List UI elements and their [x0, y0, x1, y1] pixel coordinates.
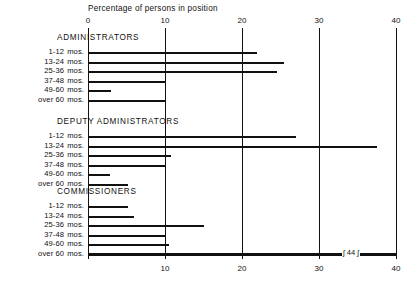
- bar-deputy-administrators-37-48-mos: [88, 165, 165, 167]
- bar-commissioners-1-12-mos: [88, 206, 128, 208]
- axis-break-annotation: ʃ 44 ʃ: [342, 249, 360, 257]
- top-tick-label-30: 30: [315, 16, 324, 25]
- category-label-deputy-administrators-49-60-mos: 49-60mos.: [0, 169, 84, 178]
- gridline-40: [396, 28, 397, 254]
- category-label-deputy-administrators-13-24-mos: 13-24mos.: [0, 141, 84, 150]
- bar-deputy-administrators-over-60-mos: [88, 184, 128, 186]
- bar-commissioners-25-36-mos: [88, 225, 204, 227]
- category-label-administrators-25-36-mos: 25-36mos.: [0, 66, 84, 75]
- category-label-administrators-1-12-mos: 1-12mos.: [0, 47, 84, 56]
- top-tick-label-20: 20: [238, 16, 247, 25]
- category-label-commissioners-1-12-mos: 1-12mos.: [0, 201, 84, 210]
- category-label-deputy-administrators-37-48-mos: 37-48mos.: [0, 160, 84, 169]
- group-title-deputy-administrators: DEPUTY ADMINISTRATORS: [57, 117, 179, 126]
- category-label-administrators-13-24-mos: 13-24mos.: [0, 57, 84, 66]
- bar-deputy-administrators-49-60-mos: [88, 174, 110, 176]
- bar-deputy-administrators-1-12-mos: [88, 136, 296, 138]
- bar-administrators-49-60-mos: [88, 90, 111, 92]
- bar-administrators-25-36-mos: [88, 71, 277, 73]
- tick-40: [396, 253, 397, 259]
- category-label-administrators-49-60-mos: 49-60mos.: [0, 85, 84, 94]
- bottom-tick-label-10: 10: [161, 264, 170, 273]
- bottom-tick-label-20: 20: [238, 264, 247, 273]
- bar-administrators-over-60-mos: [88, 100, 165, 102]
- bar-administrators-13-24-mos: [88, 62, 284, 64]
- category-label-commissioners-over-60-mos: over 60mos.: [0, 249, 84, 258]
- top-tick-label-0: 0: [86, 16, 90, 25]
- top-tick-label-40: 40: [392, 16, 401, 25]
- group-title-administrators: ADMINISTRATORS: [57, 33, 139, 42]
- gridline-30: [319, 28, 320, 254]
- bar-commissioners-13-24-mos: [88, 216, 134, 218]
- category-label-commissioners-37-48-mos: 37-48mos.: [0, 230, 84, 239]
- category-label-commissioners-49-60-mos: 49-60mos.: [0, 239, 84, 248]
- chart-container: Percentage of persons in position 0 10 2…: [0, 0, 414, 281]
- category-label-commissioners-13-24-mos: 13-24mos.: [0, 211, 84, 220]
- group-title-commissioners: COMMISSIONERS: [57, 187, 137, 196]
- bottom-tick-label-40: 40: [392, 264, 401, 273]
- bar-deputy-administrators-13-24-mos: [88, 146, 377, 148]
- axis-title: Percentage of persons in position: [88, 4, 218, 13]
- bar-deputy-administrators-25-36-mos: [88, 155, 171, 157]
- bottom-tick-label-30: 30: [315, 264, 324, 273]
- category-label-commissioners-25-36-mos: 25-36mos.: [0, 220, 84, 229]
- category-label-deputy-administrators-over-60-mos: over 60mos.: [0, 179, 84, 188]
- category-label-administrators-over-60-mos: over 60mos.: [0, 95, 84, 104]
- category-label-deputy-administrators-25-36-mos: 25-36mos.: [0, 150, 84, 159]
- bar-administrators-37-48-mos: [88, 81, 165, 83]
- category-label-administrators-37-48-mos: 37-48mos.: [0, 76, 84, 85]
- bar-commissioners-49-60-mos: [88, 244, 169, 246]
- category-label-deputy-administrators-1-12-mos: 1-12mos.: [0, 131, 84, 140]
- bar-administrators-1-12-mos: [88, 52, 257, 54]
- top-tick-label-10: 10: [161, 16, 170, 25]
- bar-commissioners-37-48-mos: [88, 235, 165, 237]
